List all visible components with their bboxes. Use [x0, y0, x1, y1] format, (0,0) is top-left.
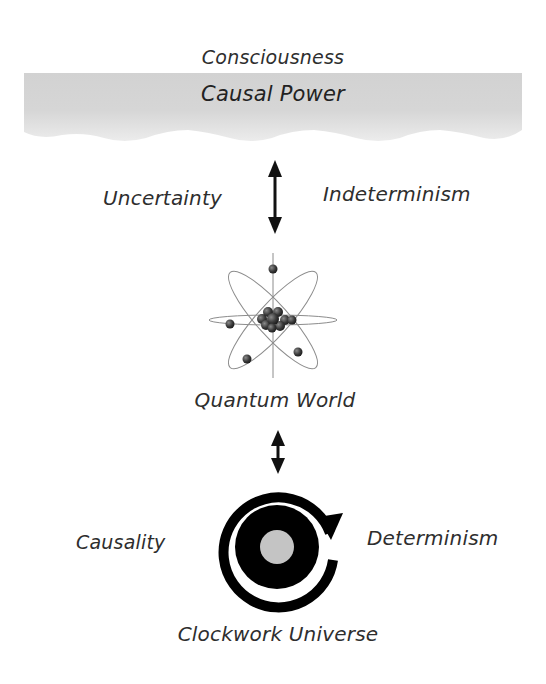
determinism-label: Determinism	[367, 526, 498, 550]
causal-power-label: Causal Power	[201, 82, 345, 106]
upper-double-arrow-icon	[268, 160, 282, 234]
atom-icon	[209, 253, 337, 378]
lower-double-arrow-icon	[271, 430, 285, 474]
consciousness-label: Consciousness	[202, 46, 344, 68]
indeterminism-label: Indeterminism	[323, 182, 471, 206]
causality-label: Causality	[76, 531, 166, 553]
clockwork-cycle-icon	[224, 497, 343, 607]
clockwork-universe-label: Clockwork Universe	[178, 622, 379, 646]
uncertainty-label: Uncertainty	[103, 186, 222, 210]
quantum-world-label: Quantum World	[195, 388, 356, 412]
